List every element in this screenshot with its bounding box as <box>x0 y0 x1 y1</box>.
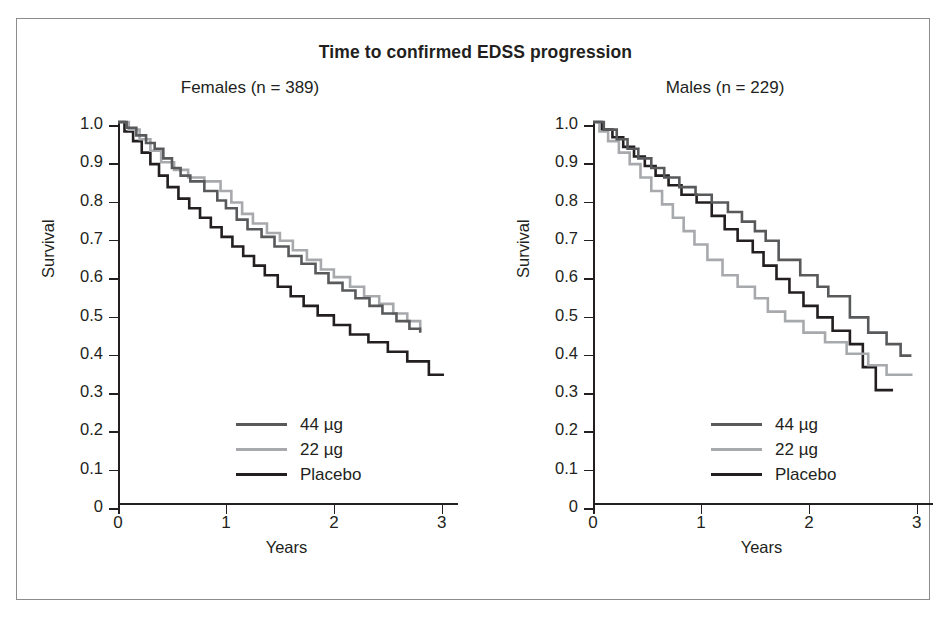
legend-swatch-dose22 <box>236 448 287 452</box>
y-tick-females-1: 0.9 <box>109 163 118 165</box>
legend-item-females-2: Placebo <box>236 462 361 487</box>
y-tick-label-males-8: 0.2 <box>555 420 578 439</box>
x-axis-title-males: Years <box>593 538 930 557</box>
y-tick-label-females-4: 0.6 <box>80 267 103 286</box>
panel-title-males: Males (n = 229) <box>510 78 940 98</box>
y-tick-females-10: 0 <box>109 508 118 510</box>
y-tick-females-6: 0.4 <box>109 355 118 357</box>
x-tick-label-females-0: 0 <box>113 513 122 533</box>
y-tick-label-females-8: 0.2 <box>80 420 103 439</box>
y-tick-females-8: 0.2 <box>109 431 118 433</box>
x-tick-label-males-1: 1 <box>696 513 705 533</box>
y-tick-label-males-0: 1.0 <box>555 114 578 133</box>
x-tick-label-males-2: 2 <box>804 513 813 533</box>
plot-area-females: 1.00.90.80.70.60.50.40.30.20.10 0123 44 … <box>118 125 455 505</box>
y-tick-females-0: 1.0 <box>109 125 118 127</box>
y-axis-title-males: Survival <box>514 219 533 278</box>
y-tick-label-males-1: 0.9 <box>555 152 578 171</box>
x-axis-title-females: Years <box>118 538 455 557</box>
y-tick-males-3: 0.7 <box>584 240 593 242</box>
y-tick-label-females-1: 0.9 <box>80 152 103 171</box>
panel-females: Females (n = 389) Survival Years 1.00.90… <box>35 78 465 578</box>
y-tick-label-males-4: 0.6 <box>555 267 578 286</box>
y-tick-label-females-2: 0.8 <box>80 191 103 210</box>
legend-item-males-2: Placebo <box>711 462 836 487</box>
legend-item-males-0: 44 µg <box>711 412 836 437</box>
y-tick-females-9: 0.1 <box>109 470 118 472</box>
y-tick-males-4: 0.6 <box>584 278 593 280</box>
y-tick-females-3: 0.7 <box>109 240 118 242</box>
x-tick-label-males-3: 3 <box>912 513 921 533</box>
panel-title-females: Females (n = 389) <box>35 78 465 98</box>
y-tick-males-5: 0.5 <box>584 317 593 319</box>
legend-item-males-1: 22 µg <box>711 437 836 462</box>
legend-item-females-0: 44 µg <box>236 412 361 437</box>
y-tick-females-5: 0.5 <box>109 317 118 319</box>
y-tick-label-males-6: 0.4 <box>555 344 578 363</box>
y-axis-title-females: Survival <box>39 219 58 278</box>
x-tick-label-females-2: 2 <box>329 513 338 533</box>
x-tick-label-females-3: 3 <box>437 513 446 533</box>
curve-females-44-µg <box>118 122 420 333</box>
y-tick-label-females-10: 0 <box>94 497 103 516</box>
legend-swatch-dose22 <box>711 448 762 452</box>
legend-label-placebo: Placebo <box>775 465 836 485</box>
y-tick-label-males-3: 0.7 <box>555 229 578 248</box>
y-tick-label-females-7: 0.3 <box>80 382 103 401</box>
panel-males: Males (n = 229) Survival Years 1.00.90.8… <box>510 78 940 578</box>
legend-swatch-placebo <box>711 473 762 477</box>
curve-males-placebo <box>593 122 893 390</box>
legend-label-dose44: 44 µg <box>300 415 343 435</box>
y-tick-males-10: 0 <box>584 508 593 510</box>
legend-label-dose22: 22 µg <box>775 440 818 460</box>
y-tick-label-males-7: 0.3 <box>555 382 578 401</box>
y-tick-males-2: 0.8 <box>584 202 593 204</box>
y-tick-label-females-6: 0.4 <box>80 344 103 363</box>
y-tick-label-females-3: 0.7 <box>80 229 103 248</box>
legend-label-placebo: Placebo <box>300 465 361 485</box>
y-tick-label-males-10: 0 <box>569 497 578 516</box>
y-tick-females-4: 0.6 <box>109 278 118 280</box>
legend-swatch-dose44 <box>711 423 762 427</box>
y-tick-males-8: 0.2 <box>584 431 593 433</box>
y-tick-label-males-9: 0.1 <box>555 459 578 478</box>
legend-males: 44 µg22 µgPlacebo <box>711 412 836 487</box>
y-tick-females-7: 0.3 <box>109 393 118 395</box>
y-tick-label-females-9: 0.1 <box>80 459 103 478</box>
y-tick-label-males-5: 0.5 <box>555 306 578 325</box>
legend-swatch-dose44 <box>236 423 287 427</box>
figure-title: Time to confirmed EDSS progression <box>0 42 951 63</box>
y-tick-males-1: 0.9 <box>584 163 593 165</box>
legend-females: 44 µg22 µgPlacebo <box>236 412 361 487</box>
legend-item-females-1: 22 µg <box>236 437 361 462</box>
y-tick-males-6: 0.4 <box>584 355 593 357</box>
x-tick-label-females-1: 1 <box>221 513 230 533</box>
y-tick-label-females-0: 1.0 <box>80 114 103 133</box>
x-tick-label-males-0: 0 <box>588 513 597 533</box>
y-tick-females-2: 0.8 <box>109 202 118 204</box>
y-tick-males-9: 0.1 <box>584 470 593 472</box>
figure-root: Time to confirmed EDSS progression Femal… <box>0 0 951 619</box>
y-tick-label-males-2: 0.8 <box>555 191 578 210</box>
curve-females-placebo <box>118 122 444 375</box>
legend-label-dose22: 22 µg <box>300 440 343 460</box>
plot-area-males: 1.00.90.80.70.60.50.40.30.20.10 0123 44 … <box>593 125 930 505</box>
legend-swatch-placebo <box>236 473 287 477</box>
y-tick-males-0: 1.0 <box>584 125 593 127</box>
legend-label-dose44: 44 µg <box>775 415 818 435</box>
y-tick-label-females-5: 0.5 <box>80 306 103 325</box>
y-tick-males-7: 0.3 <box>584 393 593 395</box>
